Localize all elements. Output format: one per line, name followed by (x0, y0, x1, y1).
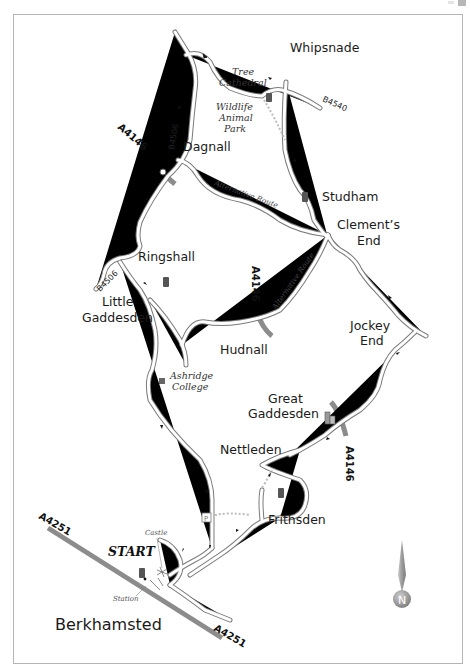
place-dagnall: Dagnall (183, 139, 231, 154)
pub-icon (278, 488, 284, 498)
castle-icon (157, 567, 167, 577)
poi-station: Station (113, 595, 139, 603)
place-little-gaddesden-1: Little (102, 294, 134, 309)
pub-icon (163, 277, 169, 287)
place-great-gaddesden-1: Great (268, 391, 303, 406)
parking-icon: P (202, 513, 211, 523)
poi-tree-cathedral-2: Cathedral (219, 77, 267, 88)
railway-station (150, 578, 163, 590)
place-whipsnade: Whipsnade (290, 40, 360, 55)
start-marker: START (108, 544, 157, 559)
poi-ashridge-1: Ashridge (169, 370, 214, 381)
place-jockey-end-2: End (360, 333, 384, 348)
compass-icon: N (393, 540, 411, 608)
svg-text:P: P (204, 515, 208, 523)
poi-tree-cathedral-1: Tree (232, 66, 254, 77)
road-b4540-label: B4540 (321, 95, 348, 114)
place-great-gaddesden-2: Gaddesden (248, 406, 319, 421)
poi-ashridge-2: College (172, 381, 209, 392)
station-dot (144, 578, 147, 581)
poi-wildlife-2: Animal (218, 112, 253, 123)
place-studham: Studham (322, 189, 378, 204)
roundabout-icon (160, 169, 166, 175)
place-hudnall: Hudnall (220, 342, 268, 357)
place-ringshall: Ringshall (138, 249, 195, 264)
place-frithsden: Frithsden (268, 512, 326, 527)
place-little-gaddesden-2: Gaddesden (82, 310, 153, 325)
pub-icon (139, 568, 145, 578)
pub-icon (266, 93, 272, 102)
pub-icon (302, 192, 308, 202)
place-berkhamsted: Berkhamsted (55, 615, 162, 634)
poi-wildlife-1: Wildlife (216, 101, 253, 112)
college-icon (159, 378, 165, 384)
place-clements-end-2: End (357, 233, 381, 248)
route-map: P Whipsnade Dagnall Studham Clement’s (0, 0, 470, 669)
poi-wildlife-3: Park (223, 123, 246, 134)
compass-label: N (398, 594, 406, 607)
poi-castle: Castle (145, 529, 167, 537)
road-a4146-south-label: A4146 (344, 446, 355, 482)
place-jockey-end-1: Jockey (349, 318, 391, 333)
road-a4146-mid-label: A4146 (250, 266, 261, 302)
place-nettleden: Nettleden (220, 442, 282, 457)
place-clements-end-1: Clement’s (337, 217, 400, 232)
